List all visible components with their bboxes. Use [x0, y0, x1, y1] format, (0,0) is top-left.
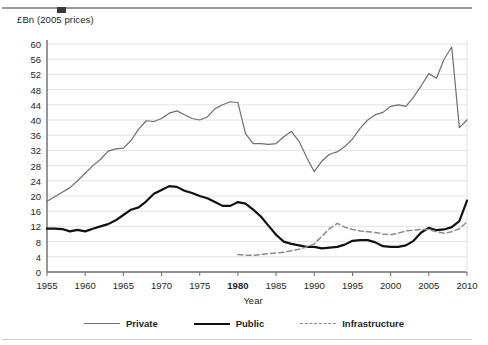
y-tick-label-32: 32 — [19, 145, 41, 156]
x-tick-label-1980: 1980 — [218, 280, 258, 291]
x-axis-title: Year — [223, 295, 283, 306]
y-tick-label-40: 40 — [19, 115, 41, 126]
x-tick-label-1970: 1970 — [142, 280, 182, 291]
y-tick-label-56: 56 — [19, 54, 41, 65]
y-tick-label-24: 24 — [19, 175, 41, 186]
y-tick-label-4: 4 — [19, 251, 41, 262]
legend-label-public: Public — [236, 318, 265, 329]
y-tick-label-28: 28 — [19, 160, 41, 171]
legend-item-private[interactable]: Private — [84, 318, 158, 329]
chart-legend: PrivatePublicInfrastructure — [0, 312, 488, 334]
legend-item-infrastructure[interactable]: Infrastructure — [300, 318, 404, 329]
x-tick-label-1955: 1955 — [27, 280, 67, 291]
x-tick-label-1985: 1985 — [256, 280, 296, 291]
y-tick-label-0: 0 — [19, 267, 41, 278]
y-tick-label-16: 16 — [19, 206, 41, 217]
y-tick-label-8: 8 — [19, 236, 41, 247]
legend-label-infrastructure: Infrastructure — [342, 318, 404, 329]
chart-page: £Bn (2005 prices) 0481216202428323640444… — [0, 0, 488, 345]
y-tick-label-20: 20 — [19, 191, 41, 202]
y-tick-label-12: 12 — [19, 221, 41, 232]
thin-gray-line-icon — [84, 318, 120, 328]
dashed-gray-line-icon — [300, 318, 336, 328]
line-chart: 04812162024283236404448525660 1955196019… — [0, 0, 488, 345]
y-tick-label-44: 44 — [19, 99, 41, 110]
x-tick-label-1975: 1975 — [180, 280, 220, 291]
y-tick-label-48: 48 — [19, 84, 41, 95]
y-tick-label-60: 60 — [19, 39, 41, 50]
chart-svg — [0, 0, 488, 345]
x-tick-label-2010: 2010 — [447, 280, 487, 291]
x-tick-label-1995: 1995 — [332, 280, 372, 291]
legend-label-private: Private — [126, 318, 158, 329]
thick-black-line-icon — [194, 318, 230, 328]
y-tick-label-36: 36 — [19, 130, 41, 141]
series-line-public — [47, 186, 467, 248]
x-tick-label-2000: 2000 — [371, 280, 411, 291]
x-tick-label-1960: 1960 — [65, 280, 105, 291]
bottom-divider-rule — [2, 339, 472, 340]
y-tick-label-52: 52 — [19, 69, 41, 80]
legend-item-public[interactable]: Public — [194, 318, 265, 329]
x-tick-label-1965: 1965 — [103, 280, 143, 291]
series-line-private — [47, 47, 467, 201]
x-tick-label-2005: 2005 — [409, 280, 449, 291]
x-tick-label-1990: 1990 — [294, 280, 334, 291]
